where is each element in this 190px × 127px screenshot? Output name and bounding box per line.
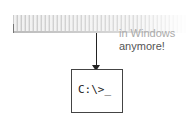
command-prompt-text: C:\>_ [78, 83, 111, 96]
timeline-start-tick [13, 24, 14, 33]
caption-line-1: in Windows [119, 27, 175, 40]
arrow-line [96, 33, 97, 67]
command-prompt-box: C:\>_ [71, 69, 123, 113]
caption: in Windows anymore! [119, 27, 175, 53]
caption-line-2: anymore! [119, 40, 175, 53]
